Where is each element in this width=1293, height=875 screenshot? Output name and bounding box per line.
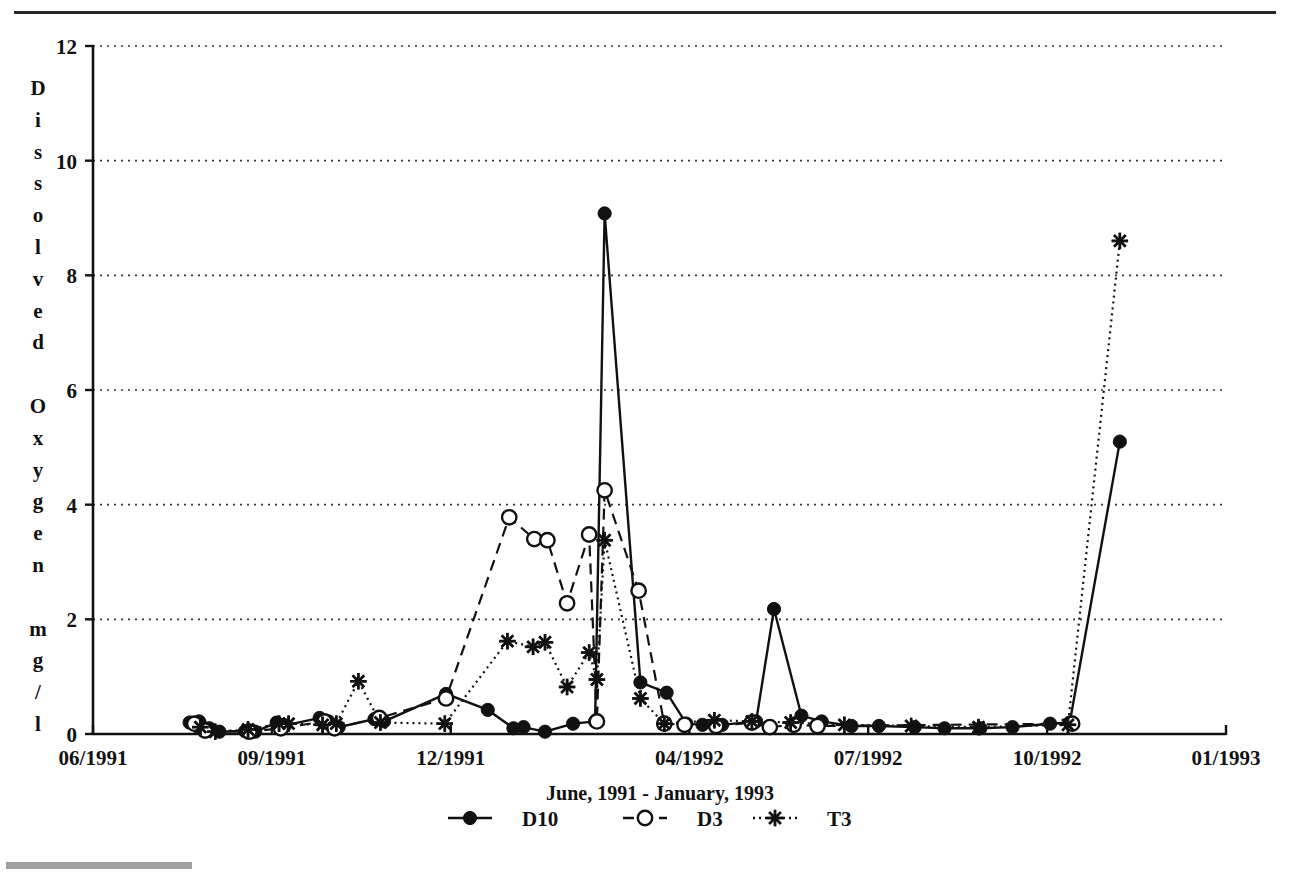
legend-item-T3[interactable]: T3 — [753, 807, 852, 831]
y-tick-label-0: 0 — [67, 723, 78, 747]
data-point-D3 — [439, 691, 453, 705]
y-axis-title-char: m — [29, 617, 47, 641]
data-point-D3 — [582, 527, 596, 541]
y-axis-title-char: s — [34, 171, 42, 195]
data-point-D3 — [810, 719, 824, 733]
data-point-D3 — [502, 510, 516, 524]
x-tick-label-07/1992: 07/1992 — [834, 746, 903, 770]
page-top-rule — [14, 11, 1276, 14]
data-point-T3 — [328, 715, 344, 731]
y-axis-title-char: n — [32, 553, 44, 577]
data-point-D10 — [598, 207, 611, 220]
y-tick-label-8: 8 — [67, 264, 78, 288]
y-axis-title-char: l — [35, 712, 41, 736]
data-point-D10 — [660, 686, 673, 699]
legend-marker-D10 — [463, 811, 476, 824]
chart-legend[interactable]: D10D3T3 — [448, 807, 852, 831]
series-T3 — [200, 241, 1120, 732]
data-point-T3 — [581, 644, 597, 660]
series-D3 — [194, 490, 1072, 731]
figure-container: 024681012 06/199109/199112/199104/199207… — [0, 0, 1293, 875]
x-tick-label-01/1993: 01/1993 — [1192, 746, 1261, 770]
dissolved-oxygen-line-chart: 024681012 06/199109/199112/199104/199207… — [0, 0, 1293, 848]
data-point-D3 — [677, 718, 691, 732]
series-markers-D10 — [183, 207, 1126, 738]
y-axis-title-char: e — [33, 299, 42, 323]
y-tick-label-10: 10 — [56, 150, 77, 174]
data-point-T3 — [656, 715, 672, 731]
x-tick-label-06/1991: 06/1991 — [59, 746, 128, 770]
series-group — [183, 207, 1128, 740]
series-line-T3 — [200, 241, 1120, 732]
data-point-T3 — [836, 717, 852, 733]
y-axis-title-char: s — [34, 140, 42, 164]
y-tick-label-12: 12 — [56, 35, 77, 59]
legend-item-D3[interactable]: D3 — [623, 807, 723, 831]
data-point-D10 — [872, 719, 885, 732]
x-tick-label-09/1991: 09/1991 — [237, 746, 306, 770]
series-D10 — [190, 213, 1120, 731]
data-point-D3 — [631, 583, 645, 597]
y-axis-title-char: / — [34, 680, 42, 704]
data-point-D3 — [560, 596, 574, 610]
data-point-T3 — [632, 690, 648, 706]
x-axis-title: June, 1991 - January, 1993 — [546, 782, 774, 805]
axis-group — [85, 46, 1226, 735]
data-point-D3 — [540, 533, 554, 547]
data-point-D10 — [481, 703, 494, 716]
y-axis-title-char: g — [33, 489, 44, 513]
data-point-T3 — [192, 719, 208, 735]
x-tick-label-04/1992: 04/1992 — [655, 746, 724, 770]
legend-label-D3: D3 — [697, 807, 723, 831]
data-point-T3 — [559, 679, 575, 695]
y-axis-title-char: d — [32, 330, 44, 354]
data-point-D3 — [590, 714, 604, 728]
data-point-D10 — [1043, 717, 1056, 730]
data-point-T3 — [589, 671, 605, 687]
series-markers-D3 — [187, 483, 1079, 739]
y-axis-title: DissolvedOxygenmg/l — [29, 76, 47, 736]
y-axis-title-char: v — [33, 267, 44, 291]
series-markers-T3 — [192, 233, 1128, 740]
data-point-T3 — [596, 532, 612, 548]
data-point-D10 — [767, 602, 780, 615]
y-axis-title-char: l — [35, 235, 41, 259]
data-point-D10 — [1006, 721, 1019, 734]
data-point-D3 — [597, 483, 611, 497]
data-point-T3 — [744, 713, 760, 729]
y-axis-title-char: D — [30, 76, 45, 100]
series-line-D3 — [194, 490, 1072, 731]
y-tick-label-2: 2 — [67, 608, 78, 632]
data-point-D10 — [634, 676, 647, 689]
data-point-T3 — [706, 712, 722, 728]
data-point-T3 — [782, 714, 798, 730]
data-point-D10 — [517, 721, 530, 734]
legend-label-D10: D10 — [522, 807, 558, 831]
data-point-T3 — [350, 673, 366, 689]
data-point-T3 — [970, 719, 986, 735]
legend-marker-D3 — [638, 811, 652, 825]
y-axis-title-char: y — [33, 458, 44, 482]
data-point-T3 — [499, 633, 515, 649]
x-tick-label-12/1991: 12/1991 — [416, 746, 485, 770]
data-point-T3 — [207, 724, 223, 740]
data-point-T3 — [240, 721, 256, 737]
legend-item-D10[interactable]: D10 — [448, 807, 558, 831]
y-tick-label-group: 024681012 — [56, 35, 78, 747]
data-point-T3 — [437, 715, 453, 731]
legend-marker-T3 — [767, 810, 783, 826]
data-point-T3 — [903, 718, 919, 734]
gridline-group — [93, 46, 1226, 619]
y-axis-title-char: g — [33, 648, 44, 672]
x-tick-label-10/1992: 10/1992 — [1013, 746, 1082, 770]
y-tick-label-4: 4 — [67, 494, 78, 518]
data-point-T3 — [280, 715, 296, 731]
y-tick-label-6: 6 — [67, 379, 78, 403]
data-point-D10 — [1113, 435, 1126, 448]
y-axis-title-char: i — [35, 108, 41, 132]
data-point-D10 — [938, 722, 951, 735]
x-axis-title-text: June, 1991 - January, 1993 — [546, 782, 774, 805]
data-point-T3 — [372, 714, 388, 730]
legend-label-T3: T3 — [827, 807, 852, 831]
data-point-D10 — [566, 717, 579, 730]
